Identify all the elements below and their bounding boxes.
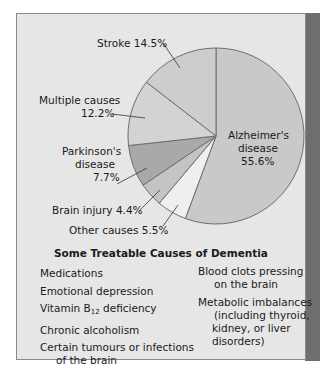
treatable-list-left: Medications Emotional depression Vitamin… — [40, 267, 194, 372]
label-brain-injury: Brain injury 4.4% — [52, 204, 143, 217]
label-multiple-causes-value: 12.2% — [81, 107, 114, 120]
list-item: Certain tumours or infectionsof the brai… — [40, 341, 194, 367]
list-item: Metabolic imbalances(including thyroid,k… — [198, 296, 312, 348]
label-parkinsons-2: disease — [75, 158, 115, 171]
list-item: Blood clots pressingon the brain — [198, 265, 312, 291]
list-item: Chronic alcoholism — [40, 324, 194, 337]
treatable-list-right: Blood clots pressingon the brain Metabol… — [198, 265, 312, 352]
list-item: Vitamin B12 deficiency — [40, 302, 194, 319]
label-parkinsons: Parkinson's — [62, 145, 121, 158]
label-alzheimers-value: 55.6% — [241, 155, 274, 168]
list-item: Emotional depression — [40, 285, 194, 298]
label-other-causes: Other causes 5.5% — [69, 224, 168, 237]
label-alzheimers-2: disease — [238, 142, 278, 155]
list-item: Medications — [40, 267, 194, 280]
treatable-causes-title: Some Treatable Causes of Dementia — [16, 247, 306, 259]
label-stroke: Stroke 14.5% — [97, 37, 167, 50]
label-parkinsons-value: 7.7% — [93, 171, 120, 184]
label-multiple-causes: Multiple causes — [39, 94, 120, 107]
label-alzheimers: Alzheimer's — [228, 129, 289, 142]
